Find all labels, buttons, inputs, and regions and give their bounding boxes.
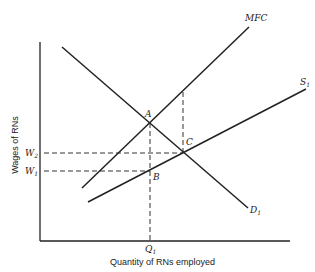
y-axis-title: Wages of RNs (10, 116, 20, 174)
q1-tick-label: Q1 (145, 244, 156, 255)
point-b-label: B (152, 172, 160, 182)
point-c-label: C (186, 137, 193, 147)
x-axis-title: Quantity of RNs employed (110, 257, 215, 267)
monopsony-diagram: MFC S1 D1 A B C W2 W1 Q1 Quantity of RNs… (0, 0, 315, 272)
point-a-label: A (144, 109, 152, 119)
supply-curve-s1 (88, 89, 306, 202)
mfc-label: MFC (244, 13, 267, 23)
s1-label: S1 (300, 77, 310, 88)
d1-label: D1 (249, 205, 261, 216)
w2-tick-label: W2 (25, 148, 38, 159)
demand-curve-d1 (62, 47, 248, 208)
mfc-curve (82, 27, 249, 188)
w1-tick-label: W1 (25, 166, 38, 177)
